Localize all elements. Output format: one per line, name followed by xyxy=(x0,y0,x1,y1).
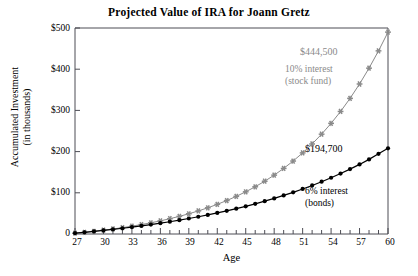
axes-frame xyxy=(75,28,388,234)
series-line xyxy=(75,148,388,233)
data-point-marker xyxy=(101,228,105,232)
series-line xyxy=(75,32,388,233)
data-point-marker xyxy=(253,202,257,206)
data-point-marker xyxy=(177,218,181,222)
chart-figure: Projected Value of IRA for Joann Gretz A… xyxy=(0,0,418,276)
data-point-marker xyxy=(206,213,210,217)
data-point-marker xyxy=(244,204,248,208)
data-point-marker xyxy=(338,171,342,175)
data-point-marker xyxy=(376,48,382,53)
data-point-marker xyxy=(366,66,372,71)
data-point-marker xyxy=(187,216,191,220)
data-point-marker xyxy=(367,157,371,161)
data-point-marker xyxy=(263,199,267,203)
data-point-marker xyxy=(139,224,143,228)
data-point-marker xyxy=(376,152,380,156)
data-point-marker xyxy=(272,196,276,200)
data-point-marker xyxy=(224,198,230,203)
data-point-marker xyxy=(348,167,352,171)
data-point-marker xyxy=(329,176,333,180)
data-point-marker xyxy=(130,225,134,229)
data-point-marker xyxy=(195,208,201,213)
data-point-marker xyxy=(291,190,295,194)
data-point-marker xyxy=(73,231,77,235)
data-point-marker xyxy=(186,211,192,216)
data-point-marker xyxy=(82,230,86,234)
data-point-marker xyxy=(301,187,305,191)
data-point-marker xyxy=(149,222,153,226)
plot-area xyxy=(0,0,418,276)
data-point-marker xyxy=(225,209,229,213)
data-point-marker xyxy=(214,202,220,207)
data-point-marker xyxy=(120,226,124,230)
data-point-marker xyxy=(386,146,390,150)
data-point-marker xyxy=(347,96,353,101)
data-point-marker xyxy=(282,193,286,197)
data-series-low xyxy=(73,146,390,235)
data-point-marker xyxy=(357,162,361,166)
data-point-marker xyxy=(111,227,115,231)
data-point-marker xyxy=(168,220,172,224)
data-point-marker xyxy=(233,194,239,199)
data-point-marker xyxy=(243,189,249,194)
data-point-marker xyxy=(234,207,238,211)
data-series-high xyxy=(72,30,391,236)
data-point-marker xyxy=(92,229,96,233)
data-point-marker xyxy=(215,211,219,215)
data-point-marker xyxy=(320,180,324,184)
data-point-marker xyxy=(205,205,211,210)
data-point-marker xyxy=(158,221,162,225)
data-point-marker xyxy=(357,81,363,86)
data-point-marker xyxy=(196,215,200,219)
axis-ticks xyxy=(75,28,388,234)
data-point-marker xyxy=(310,183,314,187)
data-series-group xyxy=(72,30,391,236)
